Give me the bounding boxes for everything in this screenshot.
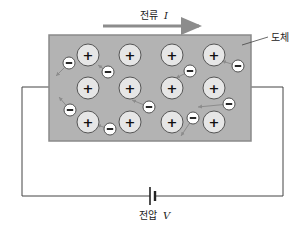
positive-ion: + [119, 111, 141, 133]
positive-ion: + [203, 77, 225, 99]
electron [63, 57, 75, 69]
plus-sign: + [209, 81, 220, 96]
minus-sign [105, 71, 111, 73]
positive-ion: + [77, 111, 99, 133]
current-label: 전류 I [140, 10, 169, 21]
minus-sign [235, 65, 241, 67]
electron [64, 104, 76, 116]
positive-ion: + [161, 44, 183, 66]
positive-ion: + [203, 44, 225, 66]
conductor-label: 도체 [271, 32, 289, 43]
positive-ion: + [77, 77, 99, 99]
electron [184, 65, 196, 77]
positive-ion: + [161, 77, 183, 99]
plus-sign: + [209, 48, 220, 63]
minus-sign [187, 70, 193, 72]
electron [187, 112, 199, 124]
positive-ion: + [119, 77, 141, 99]
positive-ion: + [77, 44, 99, 66]
plus-sign: + [125, 48, 136, 63]
plus-sign: + [167, 115, 178, 130]
minus-sign [66, 62, 72, 64]
minus-sign [107, 128, 113, 130]
plus-sign: + [167, 81, 178, 96]
positive-ion: + [203, 111, 225, 133]
battery-icon [150, 187, 155, 205]
positive-ion: + [161, 111, 183, 133]
plus-sign: + [209, 115, 220, 130]
electron [102, 66, 114, 78]
electron [143, 101, 155, 113]
plus-sign: + [167, 48, 178, 63]
plus-sign: + [125, 115, 136, 130]
electron [232, 60, 244, 72]
plus-sign: + [83, 48, 94, 63]
minus-sign [190, 117, 196, 119]
current-label-text: 전류 [140, 10, 158, 21]
electron [104, 123, 116, 135]
plus-sign: + [125, 81, 136, 96]
electron [223, 98, 235, 110]
conductor-circuit-diagram: 전류 I 전압 V 도체 ++++++++++++ [0, 0, 307, 233]
current-symbol: I [163, 10, 169, 21]
minus-sign [226, 103, 232, 105]
voltage-label-text: 전압 [139, 209, 157, 221]
minus-sign [146, 106, 152, 108]
positive-ion: + [119, 44, 141, 66]
voltage-label: 전압 V [139, 209, 172, 221]
plus-sign: + [83, 115, 94, 130]
minus-sign [67, 109, 73, 111]
plus-sign: + [83, 81, 94, 96]
voltage-symbol: V [163, 210, 172, 221]
